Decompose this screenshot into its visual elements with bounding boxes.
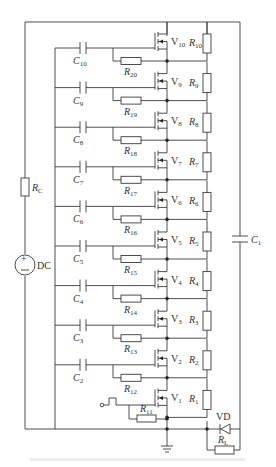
svg-text:R9: R9: [188, 77, 199, 90]
svg-text:R17: R17: [123, 185, 138, 198]
svg-text:V7: V7: [171, 155, 182, 168]
svg-text:C8: C8: [73, 134, 84, 147]
svg-text:V9: V9: [171, 76, 182, 89]
capacitor-c1: C1: [232, 234, 262, 247]
svg-text:R18: R18: [123, 145, 138, 158]
svg-text:RC: RC: [31, 182, 43, 195]
svg-text:R3: R3: [188, 314, 199, 327]
resistor-rl: RL: [215, 434, 234, 454]
svg-text:RL: RL: [217, 434, 228, 447]
svg-text:R7: R7: [188, 156, 199, 169]
junction: [165, 427, 169, 431]
svg-text:V5: V5: [171, 234, 182, 247]
svg-text:V6: V6: [171, 194, 182, 207]
junction: [165, 417, 169, 421]
svg-text:R6: R6: [188, 195, 199, 208]
svg-text:R19: R19: [123, 106, 138, 119]
junction: [205, 427, 209, 431]
svg-text:R5: R5: [188, 235, 199, 248]
svg-text:V1: V1: [171, 392, 182, 405]
svg-text:V8: V8: [171, 115, 182, 128]
svg-text:C10: C10: [73, 55, 87, 68]
svg-text:R15: R15: [123, 264, 138, 277]
svg-text:C7: C7: [73, 174, 84, 187]
caption-line: [30, 458, 245, 461]
stages: V1R1V2R2C2R12V3R3C3R13V4R4C4R14V5R5C5R15…: [55, 22, 211, 419]
pulse-input: R11: [100, 398, 167, 422]
svg-text:R4: R4: [188, 275, 199, 288]
dc-label: DC: [37, 260, 51, 271]
svg-text:R13: R13: [123, 343, 138, 356]
ground-icon: [161, 446, 173, 452]
svg-text:V4: V4: [171, 274, 182, 287]
svg-text:V10: V10: [171, 36, 186, 49]
svg-text:V2: V2: [171, 353, 182, 366]
svg-text:R14: R14: [123, 304, 138, 317]
svg-text:R10: R10: [188, 37, 203, 50]
svg-text:R1: R1: [188, 393, 199, 406]
circuit-diagram: RC + DC C1 V1R1V2R2C2R12V3R3C3R13V4R4C4R…: [0, 0, 276, 467]
svg-text:C9: C9: [73, 95, 84, 108]
svg-text:R12: R12: [123, 383, 138, 396]
svg-text:C4: C4: [73, 293, 84, 306]
svg-text:R2: R2: [188, 354, 199, 367]
svg-text:+: +: [21, 253, 27, 264]
svg-text:C5: C5: [73, 253, 84, 266]
svg-text:C6: C6: [73, 213, 84, 226]
svg-text:R20: R20: [123, 66, 138, 79]
svg-text:V3: V3: [171, 313, 182, 326]
dc-source: + DC: [15, 253, 51, 275]
svg-text:R16: R16: [123, 224, 138, 237]
svg-text:VD: VD: [216, 411, 230, 422]
svg-text:C1: C1: [251, 234, 262, 247]
svg-text:R8: R8: [188, 116, 199, 129]
svg-text:C3: C3: [73, 332, 84, 345]
diode-vd: VD: [213, 411, 230, 434]
svg-text:C2: C2: [73, 372, 84, 385]
resistor-rc: RC: [21, 178, 43, 196]
